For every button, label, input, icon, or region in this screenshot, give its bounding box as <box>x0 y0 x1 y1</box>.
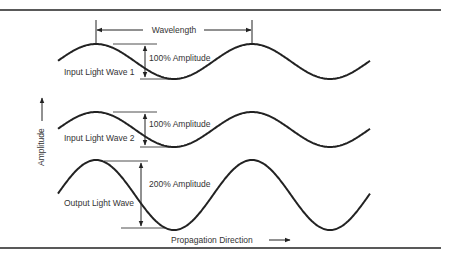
output-wave-name: Output Light Wave <box>64 198 134 208</box>
output-amplitude-label: 200% Amplitude <box>149 179 211 189</box>
wave-1-amplitude-label: 100% Amplitude <box>149 53 211 63</box>
interference-diagram: Wavelength 100% Amplitude Input Light Wa… <box>0 0 452 264</box>
wavelength-marker: Wavelength <box>96 20 252 43</box>
amplitude-axis: Amplitude <box>36 98 46 166</box>
wavelength-label: Wavelength <box>152 25 197 35</box>
propagation-axis-label: Propagation Direction <box>171 235 253 245</box>
amplitude-axis-label: Amplitude <box>36 128 46 166</box>
wave-2-amplitude-label: 100% Amplitude <box>149 119 211 129</box>
wave-1-name: Input Light Wave 1 <box>64 67 135 77</box>
output-wave-curve <box>58 160 370 230</box>
wave-2-name: Input Light Wave 2 <box>64 133 135 143</box>
propagation-axis: Propagation Direction <box>171 235 290 245</box>
